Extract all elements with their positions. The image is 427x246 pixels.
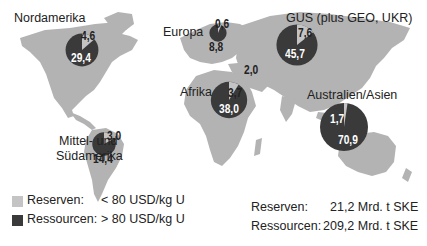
suedamerika-resources-value: 14,4 xyxy=(93,153,113,166)
legend-resources-desc: > 80 USD/kg U xyxy=(101,212,185,226)
new-zealand xyxy=(402,168,412,182)
region-label-australien: Australien/Asien xyxy=(307,88,397,102)
region-label-europa: Europa xyxy=(163,25,203,39)
legend-swatch-resources xyxy=(12,215,23,226)
total-resources-value: 209,2 Mrd. t SKE xyxy=(323,219,418,233)
region-label-gus: GUS (plus GEO, UKR) xyxy=(286,11,412,25)
europa-reserves-value: 0,6 xyxy=(215,18,229,31)
central-america xyxy=(70,112,96,130)
nordamerika-reserves-value: 4,6 xyxy=(81,30,95,43)
afrika-resources-value: 38,0 xyxy=(219,103,239,116)
afrika-reserves-value: 3,7 xyxy=(228,87,242,100)
legend-reserves-desc: < 80 USD/kg U xyxy=(101,193,185,207)
nordamerika-resources-value: 29,4 xyxy=(71,52,91,65)
europa-resources-value: 8,8 xyxy=(209,41,223,54)
region-label-afrika: Afrika xyxy=(180,85,212,99)
legend-reserves-label: Reserven: xyxy=(27,193,84,207)
australien-resources-value: 70,9 xyxy=(338,134,358,147)
madagascar xyxy=(254,138,262,156)
total-resources-label: Ressourcen: xyxy=(251,219,321,233)
gus-resources-value: 45,7 xyxy=(285,48,305,61)
legend-resources-label: Ressourcen: xyxy=(27,212,97,226)
australien-reserves-value: 1,7 xyxy=(330,113,344,126)
gus-reserves-value: 7,6 xyxy=(298,27,312,40)
legend-swatch-reserves xyxy=(12,196,23,207)
india xyxy=(280,96,296,122)
suedamerika-reserves-value: 3,0 xyxy=(107,130,121,143)
middle-east-value: 2,0 xyxy=(244,64,258,77)
total-reserves-label: Reserven: xyxy=(251,200,308,214)
region-label-nordamerika: Nordamerika xyxy=(14,11,86,25)
total-reserves-value: 21,2 Mrd. t SKE xyxy=(330,200,418,214)
